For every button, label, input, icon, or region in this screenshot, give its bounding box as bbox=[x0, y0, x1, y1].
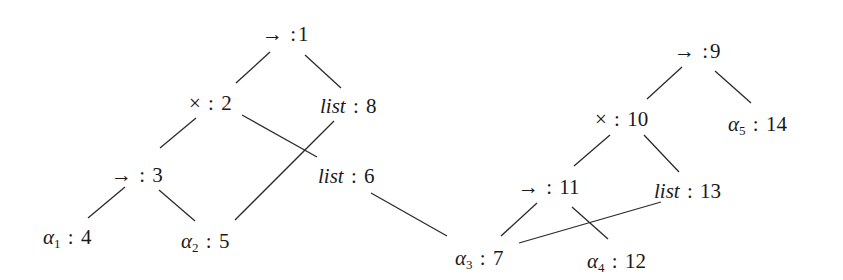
node-index: 12 bbox=[625, 249, 646, 273]
graph-node-5: α2 : 5 bbox=[181, 229, 229, 253]
graph-node-12: α4 : 12 bbox=[587, 249, 646, 273]
node-separator: : bbox=[680, 179, 700, 203]
node-symbol: α bbox=[587, 249, 598, 273]
edge-2-to-6 bbox=[242, 115, 317, 157]
node-symbol: × bbox=[595, 107, 607, 131]
node-symbol: list bbox=[320, 94, 346, 118]
node-symbol: → bbox=[262, 22, 283, 46]
node-symbol: × bbox=[189, 91, 201, 115]
edge-10-to-11 bbox=[574, 135, 610, 166]
node-index: 13 bbox=[700, 179, 721, 203]
node-index: 5 bbox=[219, 229, 230, 253]
edge-13-to-7 bbox=[519, 202, 661, 243]
node-separator: : bbox=[346, 94, 366, 118]
node-index: 9 bbox=[710, 39, 721, 63]
node-separator: : bbox=[61, 225, 81, 249]
graph-node-9: → :9 bbox=[674, 39, 721, 63]
node-subscript: 4 bbox=[598, 260, 605, 275]
node-separator: : bbox=[199, 229, 219, 253]
node-subscript: 5 bbox=[739, 123, 746, 138]
node-index: 3 bbox=[152, 163, 163, 187]
edge-3-to-4 bbox=[88, 187, 125, 218]
node-separator: : bbox=[132, 163, 152, 187]
graph-node-13: list : 13 bbox=[654, 179, 721, 203]
edge-1-to-2 bbox=[236, 52, 270, 83]
node-index: 6 bbox=[364, 164, 375, 188]
graph-node-7: α3 : 7 bbox=[455, 246, 503, 270]
node-symbol: → bbox=[674, 39, 695, 63]
edge-10-to-13 bbox=[644, 135, 679, 172]
node-subscript: 2 bbox=[192, 240, 199, 255]
edge-9-to-10 bbox=[647, 67, 682, 99]
node-symbol: → bbox=[518, 175, 539, 199]
graph-node-10: × : 10 bbox=[595, 107, 648, 131]
node-symbol: → bbox=[111, 163, 132, 187]
node-subscript: 1 bbox=[54, 236, 61, 251]
node-index: 1 bbox=[298, 22, 309, 46]
edge-9-to-14 bbox=[715, 71, 751, 103]
node-symbol: α bbox=[43, 225, 54, 249]
node-separator: : bbox=[344, 164, 364, 188]
node-symbol: list bbox=[654, 179, 680, 203]
node-symbol: list bbox=[318, 164, 344, 188]
edge-11-to-7 bbox=[501, 203, 537, 236]
node-separator: : bbox=[201, 91, 221, 115]
node-subscript: 3 bbox=[466, 257, 473, 272]
node-symbol: α bbox=[728, 112, 739, 136]
node-separator: : bbox=[539, 175, 559, 199]
edge-6-to-7 bbox=[371, 193, 447, 236]
graph-node-6: list : 6 bbox=[318, 164, 375, 188]
graph-node-4: α1 : 4 bbox=[43, 225, 91, 249]
node-index: 7 bbox=[493, 246, 504, 270]
graph-node-11: → : 11 bbox=[518, 175, 580, 199]
edge-3-to-5 bbox=[159, 190, 195, 221]
graph-node-14: α5 : 14 bbox=[728, 112, 787, 136]
node-separator: : bbox=[695, 39, 710, 63]
node-index: 8 bbox=[366, 94, 377, 118]
node-index: 14 bbox=[766, 112, 787, 136]
graph-node-8: list : 8 bbox=[320, 94, 377, 118]
graph-node-2: × : 2 bbox=[189, 91, 232, 115]
node-index: 4 bbox=[81, 225, 92, 249]
node-separator: : bbox=[473, 246, 493, 270]
graph-node-3: → : 3 bbox=[111, 163, 163, 187]
node-index: 11 bbox=[559, 175, 579, 199]
node-separator: : bbox=[746, 112, 766, 136]
node-symbol: α bbox=[181, 229, 192, 253]
node-index: 2 bbox=[221, 91, 232, 115]
node-separator: : bbox=[283, 22, 298, 46]
node-separator: : bbox=[605, 249, 625, 273]
edge-1-to-8 bbox=[305, 55, 341, 88]
node-separator: : bbox=[607, 107, 627, 131]
type-graph-diagram: → :1 × : 2 list : 8 → : 3 list : 6 α1 : … bbox=[0, 0, 843, 280]
edge-2-to-3 bbox=[160, 118, 196, 148]
node-index: 10 bbox=[627, 107, 648, 131]
graph-node-1: → :1 bbox=[262, 22, 309, 46]
node-symbol: α bbox=[455, 246, 466, 270]
